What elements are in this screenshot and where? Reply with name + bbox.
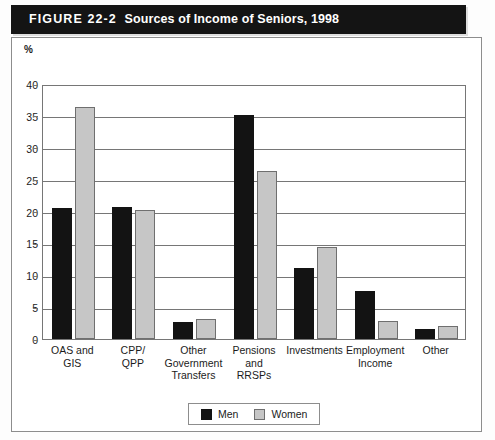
x-tick-label: PensionsandRRSPs: [224, 344, 285, 382]
bar-men: [294, 268, 314, 339]
x-axis-labels: OAS andGISCPP/QPPOtherGovernmentTransfer…: [42, 344, 466, 394]
bar-group: [415, 86, 458, 339]
bar-group: [112, 86, 155, 339]
y-tick-mark: [33, 244, 38, 245]
bar-men: [52, 208, 72, 339]
y-tick-mark: [33, 180, 38, 181]
y-tick-mark: [33, 308, 38, 309]
figure-container: FIGURE 22-2 Sources of Income of Seniors…: [0, 0, 495, 440]
bar-women: [257, 171, 277, 339]
bar-group: [355, 86, 398, 339]
x-tick-label: EmploymentIncome: [345, 344, 406, 369]
bar-group: [294, 86, 337, 339]
bar-women: [135, 210, 155, 339]
y-tick-mark: [33, 212, 38, 213]
x-tick-label: OtherGovernmentTransfers: [163, 344, 224, 382]
plot-area: [42, 85, 466, 340]
figure-title-text: Sources of Income of Seniors, 1998: [125, 12, 340, 26]
figure-title-bar: FIGURE 22-2 Sources of Income of Seniors…: [11, 5, 466, 34]
y-axis-ticks: 0510152025303540: [12, 85, 38, 340]
bar-men: [355, 291, 375, 339]
y-tick-mark: [33, 85, 38, 86]
legend-item-women: Women: [254, 408, 307, 420]
y-axis-unit-label: %: [24, 44, 33, 55]
bar-group: [173, 86, 216, 339]
y-tick-mark: [33, 116, 38, 117]
legend-item-men: Men: [201, 408, 238, 420]
x-tick-label: CPP/QPP: [103, 344, 164, 369]
bar-group: [52, 86, 95, 339]
bar-women: [317, 247, 337, 339]
legend-swatch-women: [254, 409, 265, 420]
bar-men: [112, 207, 132, 339]
y-tick-mark: [33, 148, 38, 149]
figure-title: FIGURE 22-2 Sources of Income of Seniors…: [29, 12, 339, 26]
chart-legend: Men Women: [188, 403, 320, 425]
figure-number: FIGURE 22-2: [29, 12, 117, 26]
y-tick-mark: [33, 340, 38, 341]
bar-women: [75, 107, 95, 339]
y-tick-mark: [33, 276, 38, 277]
plot-wrap: [42, 85, 466, 340]
legend-label-men: Men: [218, 408, 238, 420]
legend-swatch-men: [201, 409, 212, 420]
bar-women: [378, 321, 398, 339]
bar-men: [234, 115, 254, 339]
bar-men: [173, 322, 193, 339]
x-tick-label: OAS andGIS: [42, 344, 103, 369]
legend-label-women: Women: [271, 408, 307, 420]
bar-women: [438, 326, 458, 339]
bar-men: [415, 329, 435, 339]
bar-group: [234, 86, 277, 339]
x-tick-label: Other: [405, 344, 466, 357]
x-tick-label: Investments: [284, 344, 345, 357]
bar-women: [196, 319, 216, 339]
